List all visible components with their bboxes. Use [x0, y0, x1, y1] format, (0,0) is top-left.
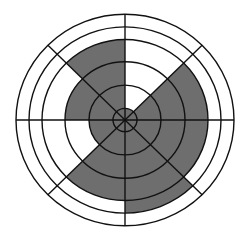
polar-sector-diagram — [0, 0, 248, 239]
radial-spokes — [16, 14, 234, 225]
shaded-sector-octant-0-45 — [125, 63, 208, 120]
